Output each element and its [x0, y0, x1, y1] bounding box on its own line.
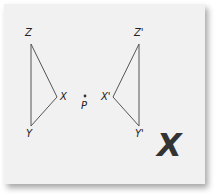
label-z: Z [25, 27, 32, 38]
label-y: Y [26, 128, 32, 139]
triangle-zxy-prime [113, 44, 139, 126]
label-z-prime: Z' [134, 27, 144, 38]
label-p: P [81, 100, 87, 111]
label-x: X [60, 91, 67, 102]
incorrect-mark-icon: X [157, 126, 182, 164]
triangle-zxy [31, 44, 57, 126]
label-x-prime: X' [101, 91, 111, 102]
label-y-prime: Y' [135, 128, 144, 139]
point-p-dot [84, 95, 87, 98]
